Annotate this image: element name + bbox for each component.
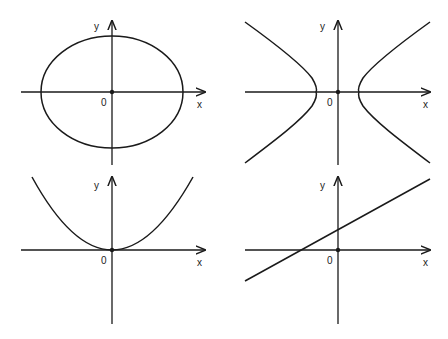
y-axis-label: y [320,21,325,32]
origin-label: 0 [327,97,333,108]
x-axis-label: x [197,257,202,268]
panel-parabola: y 0 x [21,177,205,324]
origin-point [110,90,114,94]
origin-label: 0 [101,97,107,108]
y-axis-label: y [94,180,99,191]
conic-sections-figure: y 0 x y 0 x y 0 x y 0 x [0,0,448,339]
x-axis-label: x [423,99,428,110]
y-axis-label: y [94,21,99,32]
origin-label: 0 [101,255,107,266]
panel-hyperbola: y 0 x [245,21,430,165]
origin-point [110,248,114,252]
panel-line: y 0 x [245,177,430,324]
origin-label: 0 [327,255,333,266]
panel-ellipse: y 0 x [21,21,205,165]
x-axis-label: x [197,99,202,110]
y-axis-label: y [320,180,325,191]
origin-point [336,248,340,252]
origin-point [336,90,340,94]
x-axis-label: x [423,257,428,268]
